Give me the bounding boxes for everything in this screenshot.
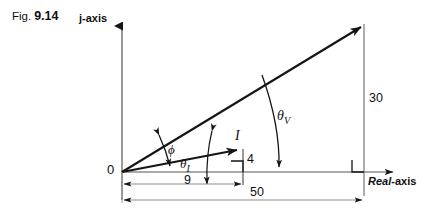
origin-label: 0 <box>107 163 114 176</box>
figure-caption: Fig.9.14 <box>12 10 59 23</box>
j-axis-label: j-axis <box>79 13 107 24</box>
dimension-label-30: 30 <box>369 92 383 105</box>
angle-theta-i-arc <box>207 131 212 184</box>
real-axis-label-italic: Real <box>368 175 391 187</box>
dimension-line-group <box>122 172 362 203</box>
angle-phi-label: ϕ <box>168 143 175 156</box>
angle-theta-i-label: θI <box>180 157 190 174</box>
real-axis-label-suffix: -axis <box>391 175 416 187</box>
axis-group <box>122 26 393 200</box>
figure-caption-prefix: Fig. <box>12 10 31 22</box>
angle-theta-i-subscript: I <box>186 163 189 174</box>
real-axis-label: Real-axis <box>368 176 416 187</box>
dimension-label-4: 4 <box>247 153 254 166</box>
dimension-label-9: 9 <box>184 174 191 187</box>
angle-theta-v-symbol: θ <box>277 108 284 123</box>
voltage-phasor-arrow <box>122 27 361 172</box>
current-vector-label: I <box>235 129 240 143</box>
voltage-right-angle-marker <box>352 160 364 172</box>
angle-theta-v-subscript: V <box>284 115 290 126</box>
figure-caption-number: 9.14 <box>34 9 58 23</box>
dimension-label-50: 50 <box>250 186 264 199</box>
figure-canvas: Fig.9.14 j-axis Real-axis 0 30 50 9 4 I … <box>0 0 444 210</box>
current-right-angle-marker <box>231 161 243 172</box>
angle-theta-v-label: θV <box>277 109 290 126</box>
angle-arc-group <box>159 75 279 184</box>
